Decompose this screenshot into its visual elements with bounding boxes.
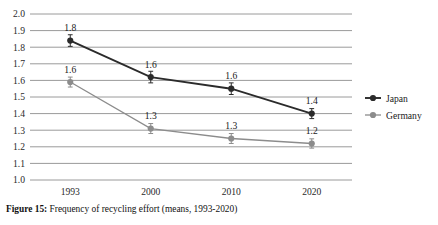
y-axis-tick-label: 1.4 [13,108,25,119]
data-point-label: 1.4 [306,95,318,106]
data-point-label: 1.8 [64,22,76,33]
data-point-label: 1.6 [145,59,157,70]
legend-marker-icon [370,95,376,101]
y-axis-tick-label: 1.9 [13,25,25,36]
series-line-germany [70,82,312,143]
data-point-marker [309,140,315,146]
y-axis-tick-label: 2.0 [13,8,25,19]
data-point-label: 1.3 [145,110,157,121]
figure-caption-separator: : [44,204,47,214]
data-point-marker [67,79,73,85]
y-axis-tick-label: 1.1 [13,158,25,169]
legend-marker-icon [370,112,376,118]
data-point-label: 1.2 [306,125,318,136]
figure-container: 2.01.91.81.71.61.51.41.31.21.11.01993200… [0,0,438,225]
data-point-marker [309,111,315,117]
y-axis-tick-label: 1.8 [13,42,25,53]
legend-label-germany: Germany [386,110,422,121]
data-point-label: 1.6 [64,64,76,75]
x-axis-tick-label: 2000 [141,186,160,197]
legend-label-japan: Japan [386,93,408,104]
figure-caption: Figure 15: Frequency of recycling effort… [6,203,436,216]
figure-number: Figure 15 [6,204,44,214]
y-axis-tick-label: 1.3 [13,125,25,136]
y-axis-tick-label: 1.7 [13,58,25,69]
x-axis-tick-label: 1993 [61,186,80,197]
y-axis-tick-label: 1.2 [13,141,25,152]
data-point-marker [148,74,154,80]
data-point-marker [228,86,234,92]
data-point-marker [148,125,154,131]
y-axis-tick-label: 1.5 [13,91,25,102]
data-point-marker [228,135,234,141]
chart-plot-area: 2.01.91.81.71.61.51.41.31.21.11.01993200… [0,0,438,200]
line-chart-svg: 2.01.91.81.71.61.51.41.31.21.11.01993200… [0,0,438,200]
x-axis-tick-label: 2020 [302,186,321,197]
y-axis-tick-label: 1.0 [13,174,25,185]
figure-caption-text: Frequency of recycling effort (means, 19… [50,204,238,214]
y-axis-tick-label: 1.6 [13,75,25,86]
data-point-marker [67,37,73,43]
data-point-label: 1.3 [225,120,237,131]
x-axis-tick-label: 2010 [222,186,241,197]
data-point-label: 1.6 [225,70,237,81]
